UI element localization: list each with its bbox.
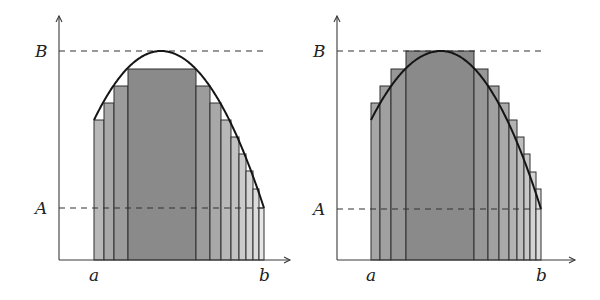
label-B: B — [34, 41, 48, 61]
sum-rectangle — [474, 69, 488, 260]
label-A: A — [33, 198, 47, 218]
sum-rectangle — [253, 189, 259, 260]
label-a: a — [366, 265, 376, 285]
sum-rectangle — [391, 69, 406, 260]
sum-rectangle — [380, 86, 391, 260]
sum-rectangle — [246, 171, 253, 260]
sum-rectangle — [371, 103, 380, 260]
label-b: b — [259, 265, 270, 285]
sum-rectangle — [231, 137, 239, 260]
sum-rectangle — [239, 154, 246, 260]
sum-rectangle — [94, 120, 104, 260]
sum-rectangle — [406, 51, 474, 260]
sum-rectangle — [221, 120, 231, 260]
sum-rectangle — [196, 86, 210, 260]
label-A: A — [311, 199, 325, 219]
sum-rectangle — [259, 208, 264, 260]
sum-rectangle — [488, 86, 499, 260]
lower-sum-bars — [94, 69, 264, 260]
lower-sum-panel: B A a b — [33, 16, 290, 285]
sum-rectangle — [128, 69, 196, 260]
sum-rectangle — [114, 86, 128, 260]
sum-rectangle — [210, 103, 221, 260]
label-B: B — [312, 41, 326, 61]
upper-sum-bars — [371, 51, 541, 260]
sum-rectangle — [104, 103, 114, 260]
sum-rectangle — [499, 103, 509, 260]
label-b: b — [536, 265, 547, 285]
riemann-sum-figure: B A a b B A a b — [0, 0, 600, 300]
label-a: a — [89, 265, 99, 285]
upper-sum-panel: B A a b — [311, 16, 575, 285]
